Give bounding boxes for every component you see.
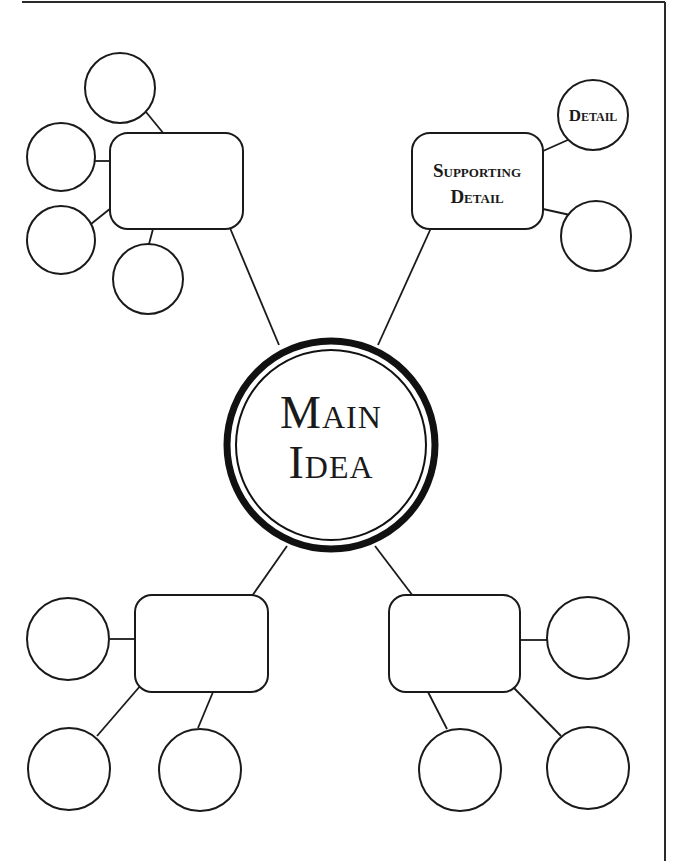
connector-bl-box-to-circle-3 <box>198 692 213 728</box>
detail-circle-tl-4[interactable] <box>113 244 183 314</box>
main-idea-web-diagram: Supporting Detail Detail Main Idea <box>0 0 684 861</box>
connector-main-to-top-left <box>230 228 279 345</box>
supporting-detail-box-bottom-left[interactable] <box>135 595 268 692</box>
main-idea-label-line-1: Main <box>280 387 382 438</box>
connector-bl-box-to-circle-2 <box>97 685 141 736</box>
connector-br-box-to-circle-2 <box>428 692 447 729</box>
main-idea-node: Main Idea <box>227 341 435 549</box>
supporting-detail-box-top-right[interactable] <box>412 133 543 229</box>
detail-circle-br-3[interactable] <box>547 727 629 809</box>
detail-circle-tr-2[interactable] <box>561 201 631 271</box>
detail-circle-br-2[interactable] <box>419 729 501 811</box>
detail-circle-tl-1[interactable] <box>85 53 155 123</box>
connector-tr-box-to-circle-2 <box>543 209 570 215</box>
connector-main-to-bottom-left <box>252 546 287 596</box>
detail-circle-bl-3[interactable] <box>159 729 241 811</box>
connector-tr-box-to-circle-1 <box>543 139 570 151</box>
detail-circle-tl-3[interactable] <box>27 206 95 274</box>
connector-main-to-bottom-right <box>375 546 413 596</box>
branch-top-right: Supporting Detail Detail <box>412 80 631 271</box>
supporting-detail-box-bottom-right[interactable] <box>389 595 520 692</box>
detail-label: Detail <box>569 106 618 125</box>
detail-circle-bl-1[interactable] <box>27 598 109 680</box>
connector-main-to-top-right <box>378 228 431 345</box>
connector-tl-box-to-circle-3 <box>91 208 111 224</box>
supporting-detail-box-top-left[interactable] <box>110 133 243 229</box>
connector-tl-box-to-circle-4 <box>149 229 153 244</box>
detail-circle-bl-2[interactable] <box>28 728 110 810</box>
branch-bottom-right <box>389 595 629 811</box>
supporting-detail-label-line-2: Detail <box>450 186 504 207</box>
branch-bottom-left <box>27 595 268 811</box>
connector-br-box-to-circle-3 <box>513 687 561 736</box>
connector-tl-box-to-circle-1 <box>146 112 164 134</box>
supporting-detail-label-line-1: Supporting <box>433 160 521 181</box>
detail-circle-tl-2[interactable] <box>27 123 95 191</box>
main-idea-label-line-2: Idea <box>288 437 373 488</box>
branch-top-left <box>27 53 243 314</box>
detail-circle-br-1[interactable] <box>547 597 629 679</box>
